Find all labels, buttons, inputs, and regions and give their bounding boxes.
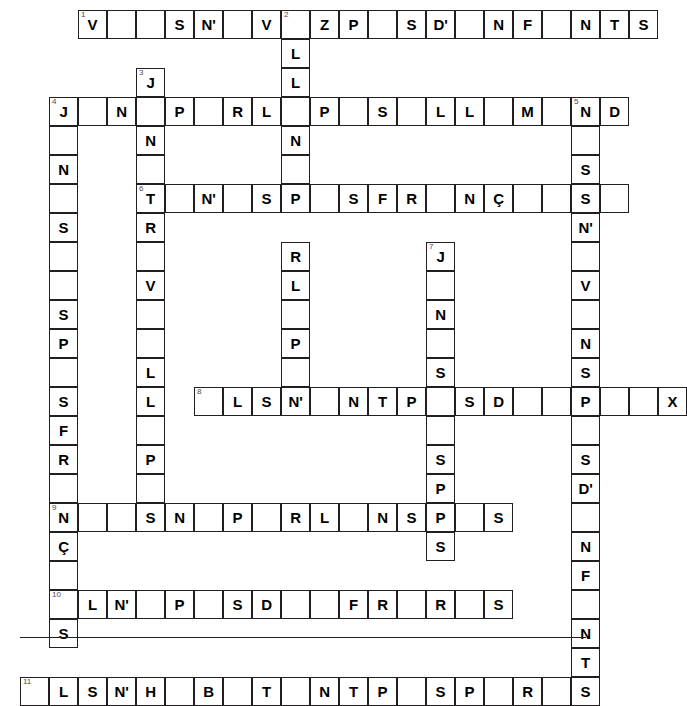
- grid-cell[interactable]: N': [107, 677, 136, 706]
- grid-cell[interactable]: [426, 387, 455, 416]
- grid-cell[interactable]: [107, 503, 136, 532]
- grid-cell[interactable]: [600, 387, 629, 416]
- grid-cell[interactable]: [194, 503, 223, 532]
- grid-cell[interactable]: [136, 155, 165, 184]
- grid-cell[interactable]: N: [107, 97, 136, 126]
- grid-cell[interactable]: N: [571, 10, 600, 39]
- grid-cell[interactable]: [426, 184, 455, 213]
- grid-cell[interactable]: [136, 474, 165, 503]
- grid-cell[interactable]: T: [339, 677, 368, 706]
- grid-cell[interactable]: [542, 677, 571, 706]
- grid-cell[interactable]: [571, 590, 600, 619]
- grid-cell[interactable]: S: [165, 10, 194, 39]
- grid-cell[interactable]: [397, 677, 426, 706]
- grid-cell[interactable]: D: [252, 590, 281, 619]
- grid-cell[interactable]: 9N: [49, 503, 78, 532]
- grid-cell[interactable]: [397, 590, 426, 619]
- grid-cell[interactable]: V: [571, 271, 600, 300]
- grid-cell[interactable]: N': [194, 10, 223, 39]
- grid-cell[interactable]: [194, 97, 223, 126]
- grid-cell[interactable]: F: [513, 10, 542, 39]
- grid-cell[interactable]: S: [397, 503, 426, 532]
- grid-cell[interactable]: [310, 590, 339, 619]
- grid-cell[interactable]: [310, 387, 339, 416]
- grid-cell[interactable]: S: [484, 590, 513, 619]
- grid-cell[interactable]: 6T: [136, 184, 165, 213]
- grid-cell[interactable]: S: [629, 10, 658, 39]
- grid-cell[interactable]: [339, 503, 368, 532]
- grid-cell[interactable]: S: [78, 677, 107, 706]
- grid-cell[interactable]: 2: [281, 10, 310, 39]
- grid-cell[interactable]: [426, 416, 455, 445]
- grid-cell[interactable]: [571, 126, 600, 155]
- grid-cell[interactable]: [49, 242, 78, 271]
- grid-cell[interactable]: P: [339, 10, 368, 39]
- grid-cell[interactable]: L: [310, 503, 339, 532]
- grid-cell[interactable]: [571, 300, 600, 329]
- grid-cell[interactable]: [49, 358, 78, 387]
- grid-cell[interactable]: S: [571, 155, 600, 184]
- grid-cell[interactable]: T: [252, 677, 281, 706]
- grid-cell[interactable]: R: [49, 445, 78, 474]
- grid-cell[interactable]: [397, 97, 426, 126]
- grid-cell[interactable]: [165, 184, 194, 213]
- grid-cell[interactable]: L: [252, 97, 281, 126]
- grid-cell[interactable]: S: [571, 445, 600, 474]
- grid-cell[interactable]: N: [455, 184, 484, 213]
- grid-cell[interactable]: [542, 97, 571, 126]
- grid-cell[interactable]: [49, 126, 78, 155]
- grid-cell[interactable]: S: [484, 503, 513, 532]
- grid-cell[interactable]: [455, 503, 484, 532]
- grid-cell[interactable]: Z: [310, 10, 339, 39]
- grid-cell[interactable]: S: [49, 387, 78, 416]
- grid-cell[interactable]: [484, 97, 513, 126]
- grid-cell[interactable]: [542, 184, 571, 213]
- grid-cell[interactable]: [252, 503, 281, 532]
- grid-cell[interactable]: S: [252, 387, 281, 416]
- grid-cell[interactable]: [513, 184, 542, 213]
- grid-cell[interactable]: [600, 184, 629, 213]
- grid-cell[interactable]: [281, 97, 310, 126]
- grid-cell[interactable]: 11: [20, 677, 49, 706]
- grid-cell[interactable]: R: [136, 213, 165, 242]
- grid-cell[interactable]: L: [281, 39, 310, 68]
- grid-cell[interactable]: 3J: [136, 68, 165, 97]
- grid-cell[interactable]: 7J: [426, 242, 455, 271]
- grid-cell[interactable]: [223, 10, 252, 39]
- grid-cell[interactable]: S: [397, 10, 426, 39]
- grid-cell[interactable]: L: [281, 68, 310, 97]
- grid-cell[interactable]: P: [426, 503, 455, 532]
- grid-cell[interactable]: N: [49, 155, 78, 184]
- grid-cell[interactable]: L: [78, 590, 107, 619]
- grid-cell[interactable]: L: [426, 97, 455, 126]
- grid-cell[interactable]: 1V: [78, 10, 107, 39]
- grid-cell[interactable]: [455, 10, 484, 39]
- grid-cell[interactable]: R: [513, 677, 542, 706]
- grid-cell[interactable]: N: [136, 126, 165, 155]
- grid-cell[interactable]: 5N: [571, 97, 600, 126]
- grid-cell[interactable]: R: [281, 503, 310, 532]
- grid-cell[interactable]: T: [368, 387, 397, 416]
- grid-cell[interactable]: S: [252, 184, 281, 213]
- grid-cell[interactable]: S: [136, 503, 165, 532]
- grid-cell[interactable]: [49, 474, 78, 503]
- grid-cell[interactable]: B: [194, 677, 223, 706]
- grid-cell[interactable]: S: [49, 619, 78, 648]
- grid-cell[interactable]: [310, 184, 339, 213]
- grid-cell[interactable]: N': [107, 590, 136, 619]
- grid-cell[interactable]: [339, 97, 368, 126]
- grid-cell[interactable]: F: [571, 561, 600, 590]
- grid-cell[interactable]: R: [397, 184, 426, 213]
- grid-cell[interactable]: S: [339, 184, 368, 213]
- grid-cell[interactable]: N: [165, 503, 194, 532]
- grid-cell[interactable]: [49, 561, 78, 590]
- grid-cell[interactable]: [426, 329, 455, 358]
- grid-cell[interactable]: [455, 590, 484, 619]
- grid-cell[interactable]: R: [426, 590, 455, 619]
- grid-cell[interactable]: N: [571, 532, 600, 561]
- grid-cell[interactable]: L: [281, 271, 310, 300]
- grid-cell[interactable]: P: [397, 387, 426, 416]
- grid-cell[interactable]: V: [136, 271, 165, 300]
- grid-cell[interactable]: P: [49, 329, 78, 358]
- grid-cell[interactable]: [136, 416, 165, 445]
